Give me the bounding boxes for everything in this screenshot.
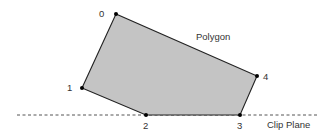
polygon-label: Polygon: [196, 31, 230, 42]
vertex-marker-4: [255, 74, 259, 78]
vertex-label-3: 3: [237, 120, 242, 131]
vertex-marker-1: [80, 86, 84, 90]
vertex-label-2: 2: [143, 120, 148, 131]
polygon-clip-diagram: 0 1 2 3 4 Polygon Clip Plane: [0, 0, 333, 134]
vertex-marker-3: [238, 113, 242, 117]
vertex-label-4: 4: [263, 71, 268, 82]
vertex-marker-0: [114, 12, 118, 16]
clip-plane-label: Clip Plane: [267, 119, 310, 130]
polygon-shape: [82, 14, 257, 115]
vertex-marker-2: [144, 113, 148, 117]
vertex-label-1: 1: [67, 82, 72, 93]
vertex-label-0: 0: [99, 8, 104, 19]
